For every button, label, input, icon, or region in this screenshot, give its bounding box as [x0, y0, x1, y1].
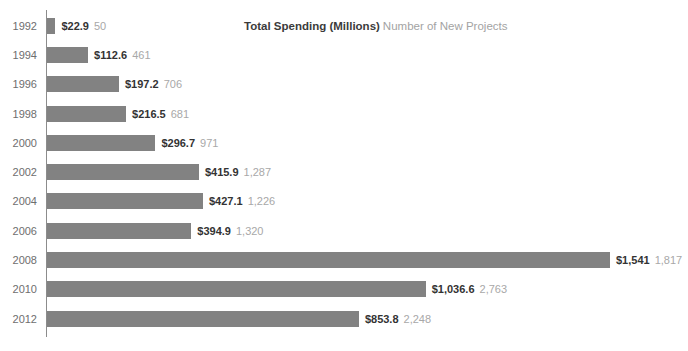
bar-row: 2008$1,5411,817 [0, 245, 688, 274]
year-label: 2008 [0, 254, 37, 266]
spending-value-label: $394.9 [197, 225, 231, 237]
spending-bar [47, 223, 191, 239]
year-label: 2010 [0, 283, 37, 295]
year-label: 1998 [0, 108, 37, 120]
bar-row: 2004$427.11,226 [0, 187, 688, 216]
spending-value-label: $216.5 [132, 108, 166, 120]
spending-value-label: $112.6 [94, 49, 127, 61]
year-label: 2000 [0, 137, 37, 149]
year-label: 2002 [0, 166, 37, 178]
bar-row: 2010$1,036.62,763 [0, 275, 688, 304]
spending-value-label: $1,036.6 [432, 283, 475, 295]
spending-bar [47, 281, 426, 297]
projects-count-label: 1,817 [655, 254, 683, 266]
year-label: 1992 [0, 20, 37, 32]
bar-row: 2002$415.91,287 [0, 157, 688, 186]
spending-value-label: $853.8 [365, 313, 399, 325]
spending-value-label: $296.7 [161, 137, 195, 149]
spending-bar [47, 135, 155, 151]
projects-count-label: 2,763 [480, 283, 508, 295]
projects-count-label: 2,248 [404, 313, 432, 325]
bar-row: 2000$296.7971 [0, 128, 688, 157]
projects-count-label: 1,226 [248, 195, 276, 207]
spending-bar [47, 164, 199, 180]
year-label: 1994 [0, 49, 37, 61]
chart-rows: 1992$22.9501994$112.64611996$197.2706199… [0, 11, 688, 333]
bar-row: 1996$197.2706 [0, 70, 688, 99]
year-label: 2012 [0, 313, 37, 325]
bar-chart: Total Spending (Millions)Number of New P… [0, 0, 688, 351]
bar-row: 2006$394.91,320 [0, 216, 688, 245]
year-label: 2004 [0, 195, 37, 207]
spending-bar [47, 47, 88, 63]
bar-row: 2012$853.82,248 [0, 304, 688, 333]
bar-row: 1994$112.6461 [0, 40, 688, 69]
projects-count-label: 971 [200, 137, 218, 149]
year-label: 2006 [0, 225, 37, 237]
year-label: 1996 [0, 78, 37, 90]
spending-value-label: $22.9 [61, 20, 89, 32]
projects-count-label: 1,287 [244, 166, 272, 178]
spending-value-label: $427.1 [209, 195, 243, 207]
spending-value-label: $197.2 [125, 78, 159, 90]
bar-row: 1992$22.950 [0, 11, 688, 40]
spending-bar [47, 252, 610, 268]
spending-bar [47, 18, 55, 34]
spending-value-label: $1,541 [616, 254, 650, 266]
spending-value-label: $415.9 [205, 166, 239, 178]
projects-count-label: 681 [171, 108, 189, 120]
spending-bar [47, 76, 119, 92]
spending-bar [47, 106, 126, 122]
projects-count-label: 50 [94, 20, 106, 32]
projects-count-label: 461 [132, 49, 150, 61]
bar-row: 1998$216.5681 [0, 99, 688, 128]
projects-count-label: 706 [164, 78, 182, 90]
spending-bar [47, 193, 203, 209]
projects-count-label: 1,320 [236, 225, 264, 237]
spending-bar [47, 311, 359, 327]
